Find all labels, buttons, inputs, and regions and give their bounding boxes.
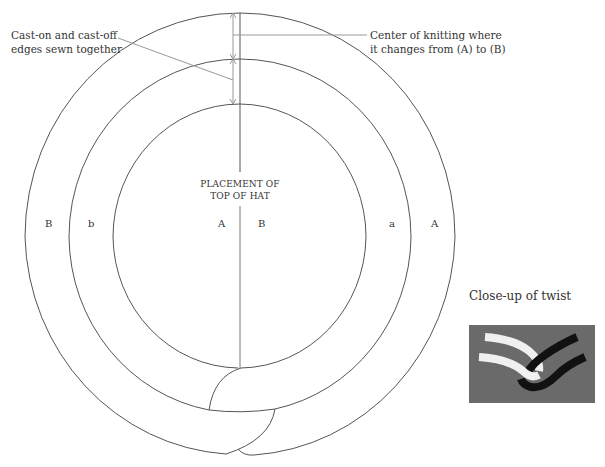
closeup-photo [469, 325, 595, 403]
left-callout-line2: edges sewn together [11, 42, 122, 56]
inner-ring-right [240, 104, 366, 368]
twist-crossing-upper [209, 368, 241, 410]
outer-ring-right [238, 13, 455, 455]
ring-label-right-middle: a [389, 218, 395, 229]
middle-ring-right [240, 59, 411, 409]
twist-crossing-lower [226, 409, 275, 454]
right-callout-line2: it changes from (A) to (B) [370, 42, 506, 56]
ring-label-right-inner: B [258, 218, 265, 229]
placement-label-line1: PLACEMENT OF [200, 179, 280, 191]
placement-label: PLACEMENT OF TOP OF HAT [200, 179, 280, 202]
ring-label-right-outer: A [431, 218, 438, 229]
left-callout: Cast-on and cast-off edges sewn together [11, 28, 122, 56]
left-callout-line1: Cast-on and cast-off [11, 28, 122, 42]
left-leader-line [118, 38, 233, 80]
twist-closeup-illustration [469, 325, 595, 403]
closeup-title: Close-up of twist [469, 289, 571, 303]
middle-ring-left [69, 59, 240, 410]
placement-label-line2: TOP OF HAT [200, 191, 280, 203]
twist-band-bottom [209, 409, 275, 412]
outer-ring-left [25, 13, 240, 454]
right-callout: Center of knitting where it changes from… [370, 28, 506, 56]
ring-label-left-middle: b [88, 218, 94, 229]
inner-ring-left [113, 104, 240, 368]
ring-label-left-inner: A [218, 218, 225, 229]
ring-label-left-outer: B [45, 218, 52, 229]
right-callout-line1: Center of knitting where [370, 28, 506, 42]
